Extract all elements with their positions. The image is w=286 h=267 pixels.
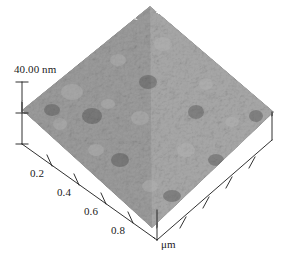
x-tick-label-0.6: 0.6 [84,205,98,217]
afm-figure: 40.00 nm 0.2 0.4 0.6 0.8 μm [0,0,286,267]
x-tick-label-0.2: 0.2 [30,167,44,179]
z-axis-scalebar-label: 40.00 nm [14,63,56,75]
axis-unit-label: μm [161,238,176,250]
afm-plot-canvas [0,0,286,267]
x-tick-label-0.4: 0.4 [57,186,71,198]
x-tick-label-0.8: 0.8 [111,224,125,236]
